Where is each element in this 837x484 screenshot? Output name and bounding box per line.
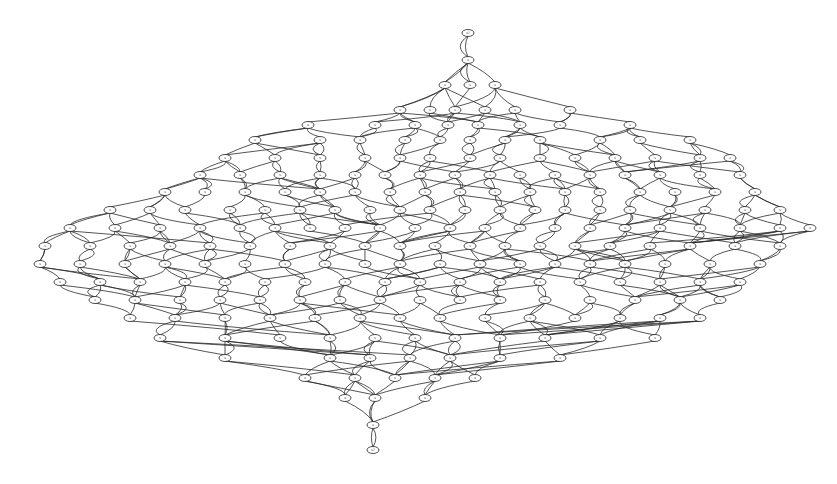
graph-edge (780, 231, 783, 243)
graph-node: s (694, 315, 706, 322)
graph-edge (505, 128, 560, 137)
graph-edge (445, 63, 468, 82)
graph-node: s (414, 297, 426, 304)
graph-node: s (219, 155, 231, 162)
svg-text:s?: s? (371, 448, 375, 452)
graph-edge (425, 195, 432, 207)
graph-node: s (474, 261, 486, 268)
graph-node: s (219, 315, 231, 322)
graph-edge (130, 321, 280, 335)
graph-node: s (584, 225, 596, 232)
graph-node: s (569, 315, 581, 322)
graph-node: s (534, 155, 546, 162)
graph-edge (660, 303, 680, 315)
graph-node: s (119, 261, 131, 268)
graph-node: s (444, 225, 456, 232)
graph-node: s (479, 107, 491, 114)
graph-node: s (354, 137, 366, 144)
graph-node: s (39, 243, 51, 250)
graph-edge (540, 143, 575, 155)
graph-node: s (464, 155, 476, 162)
graph-edge (395, 361, 560, 375)
graph-node: s (534, 279, 546, 286)
graph-edge (400, 213, 450, 225)
graph-node: s (279, 261, 291, 268)
graph-node: s (339, 225, 351, 232)
graph-node: s (684, 243, 696, 250)
graph-edge (520, 128, 540, 137)
graph-node: s (274, 335, 286, 342)
graph-edge (345, 401, 373, 422)
graph-node: s (614, 279, 626, 286)
graph-node: s (734, 279, 746, 286)
graph-node: s (214, 297, 226, 304)
graph-node: s (389, 375, 401, 382)
graph-node: s (479, 315, 491, 322)
graph-node: s (374, 225, 386, 232)
graph-node: s (169, 315, 181, 322)
graph-node: s (754, 261, 766, 268)
graph-edge (245, 195, 300, 207)
graph-node: s (699, 207, 711, 214)
graph-edge (400, 88, 445, 107)
graph-node: s (774, 225, 786, 232)
graph-node: s (419, 395, 431, 402)
graph-node: s (634, 189, 646, 196)
graph-node: s (729, 243, 741, 250)
graph-node: s (109, 225, 121, 232)
graph-node: s (414, 279, 426, 286)
graph-node: s (179, 279, 191, 286)
graph-node: s (619, 261, 631, 268)
graph-edge (313, 143, 320, 155)
graph-edge (365, 249, 400, 261)
graph-edge (530, 303, 545, 315)
graph-node: s (584, 172, 596, 179)
graph-node: s (569, 155, 581, 162)
graph-node: s (409, 335, 421, 342)
graph-edge (538, 285, 545, 297)
graph-node: s? (367, 447, 379, 454)
graph-edge (515, 113, 560, 122)
graph-node: s (554, 355, 566, 362)
graph-node: s (499, 137, 511, 144)
graph-node: s (574, 279, 586, 286)
graph-edge (255, 128, 308, 137)
graph-node: s (774, 207, 786, 214)
graph-edge (625, 267, 700, 279)
graph-edge (485, 303, 545, 315)
graph-edge (580, 285, 635, 297)
graph-node: s (349, 172, 361, 179)
graph-edge (470, 143, 474, 155)
graph-edge (554, 178, 565, 189)
graph-edge (745, 195, 755, 207)
graph-node: s (329, 207, 341, 214)
graph-edge (416, 285, 420, 297)
graph-edge (402, 341, 415, 355)
graph-edge (369, 401, 375, 422)
graph-node: s (449, 335, 461, 342)
graph-edge (540, 285, 546, 297)
graph-edge (400, 88, 445, 107)
graph-edge (564, 195, 565, 207)
graph-node: s (379, 172, 391, 179)
graph-node: s (584, 261, 596, 268)
graph-node: s (124, 243, 136, 250)
graph-node: s (359, 155, 371, 162)
graph-node: s (499, 243, 511, 250)
graph-edge (355, 161, 365, 172)
graph-edge (740, 213, 780, 225)
graph-edge (373, 401, 425, 422)
graph-edge (745, 213, 780, 225)
graph-edge (285, 249, 330, 261)
graph-node: s (364, 207, 376, 214)
graph-node: s (264, 315, 276, 322)
graph-edge (307, 128, 320, 137)
graph-edge (308, 113, 400, 122)
graph-node: s (774, 243, 786, 250)
graph-node: s (494, 335, 506, 342)
graph-edge (467, 63, 470, 82)
graph-edge (740, 178, 755, 189)
graph-edge (575, 161, 590, 172)
graph-edge (355, 178, 358, 189)
graph-edge (495, 88, 570, 107)
